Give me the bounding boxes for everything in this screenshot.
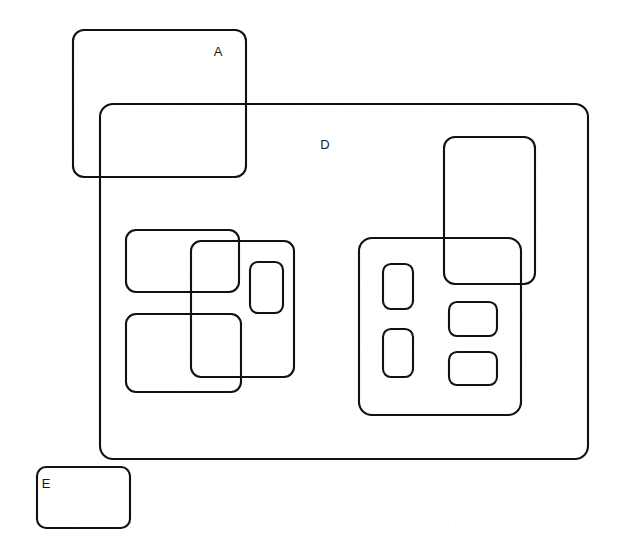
rect-left-group-small-inner [250, 262, 283, 313]
rect-left-group-upper [126, 230, 239, 292]
diagram-svg: ADE [0, 0, 622, 556]
rect-right-group-inner-upper-left [383, 264, 413, 309]
rect-left-group-lower [126, 314, 241, 392]
rect-e-bottom-left [37, 467, 130, 528]
labels-layer: ADE [42, 44, 330, 491]
label-e: E [42, 476, 51, 491]
rect-right-group-inner-lower-left [383, 329, 413, 377]
rect-d-large-container [100, 104, 588, 459]
rect-right-group-inner-upper-right [449, 302, 497, 336]
shapes-layer [37, 30, 588, 528]
diagram-canvas: ADE [0, 0, 622, 556]
label-a: A [214, 44, 223, 59]
rect-left-group-tall-overlap [191, 241, 294, 377]
rect-right-group-inner-lower-right [449, 352, 497, 385]
label-d: D [320, 137, 329, 152]
